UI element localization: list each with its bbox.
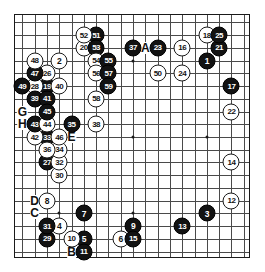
grid-line-horizontal: [15, 252, 249, 253]
grid-line-horizontal: [15, 188, 249, 189]
stone-move-15[interactable]: 15: [125, 230, 142, 247]
stone-move-7[interactable]: 7: [75, 205, 92, 222]
grid-line-horizontal: [15, 22, 249, 23]
stone-move-14[interactable]: 14: [223, 154, 240, 171]
star-point: [205, 136, 208, 139]
stone-move-37[interactable]: 37: [125, 39, 142, 56]
stone-move-31[interactable]: 31: [38, 218, 55, 235]
star-point: [132, 212, 135, 215]
grid-line-vertical: [195, 15, 196, 257]
stone-move-50[interactable]: 50: [149, 65, 166, 82]
board-marker-C: C: [30, 207, 40, 219]
stone-move-40[interactable]: 40: [51, 78, 68, 95]
stone-move-17[interactable]: 17: [223, 78, 240, 95]
board-marker-E: E: [67, 131, 76, 143]
stone-move-23[interactable]: 23: [149, 39, 166, 56]
stone-move-1[interactable]: 1: [198, 52, 215, 69]
stone-move-36[interactable]: 36: [38, 141, 55, 158]
grid-line-vertical: [22, 15, 23, 257]
stone-move-12[interactable]: 12: [223, 192, 240, 209]
grid-line-vertical: [231, 15, 232, 257]
stone-move-13[interactable]: 13: [174, 218, 191, 235]
stone-move-2[interactable]: 2: [51, 52, 68, 69]
stone-move-11[interactable]: 11: [75, 243, 92, 260]
stone-move-3[interactable]: 3: [198, 205, 215, 222]
stone-move-45[interactable]: 45: [38, 103, 55, 120]
star-point: [132, 59, 135, 62]
stone-move-8[interactable]: 8: [38, 192, 55, 209]
stone-move-59[interactable]: 59: [100, 78, 117, 95]
star-point: [132, 136, 135, 139]
stone-move-49[interactable]: 49: [14, 78, 31, 95]
go-board-diagram: 1234567891011121314151617181920212223242…: [0, 0, 265, 272]
grid-line-vertical: [121, 15, 122, 257]
stone-move-38[interactable]: 38: [88, 116, 105, 133]
stone-move-16[interactable]: 16: [174, 39, 191, 56]
stone-move-48[interactable]: 48: [26, 52, 43, 69]
board-marker-G: G: [17, 106, 27, 118]
stone-move-22[interactable]: 22: [223, 103, 240, 120]
stone-move-46[interactable]: 46: [51, 129, 68, 146]
stone-move-58[interactable]: 58: [88, 90, 105, 107]
grid-line-vertical: [170, 15, 171, 257]
stone-move-25[interactable]: 25: [211, 27, 228, 44]
star-point: [58, 212, 61, 215]
grid-line-vertical: [244, 15, 245, 257]
stone-move-35[interactable]: 35: [63, 116, 80, 133]
go-board[interactable]: 1234567891011121314151617181920212223242…: [14, 14, 250, 258]
stone-move-24[interactable]: 24: [174, 65, 191, 82]
